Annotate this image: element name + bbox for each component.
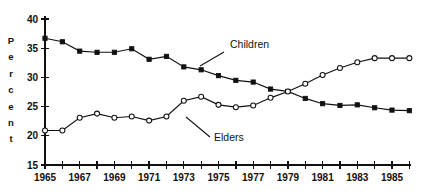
data-point-marker <box>199 94 204 99</box>
y-axis-label-letter: c <box>8 84 13 95</box>
x-tick-label: 1977 <box>242 172 265 183</box>
y-axis-label-letter: e <box>8 101 13 112</box>
data-point-marker <box>355 60 360 65</box>
data-point-marker <box>60 40 64 44</box>
data-point-marker <box>355 103 359 107</box>
data-point-marker <box>147 57 151 61</box>
x-tick-label: 1971 <box>138 172 161 183</box>
data-point-marker <box>321 102 325 106</box>
data-point-marker <box>373 106 377 110</box>
data-point-marker <box>234 78 238 82</box>
data-point-marker <box>233 105 238 110</box>
x-tick-label: 1975 <box>207 172 230 183</box>
data-point-marker <box>216 74 220 78</box>
y-axis-label-letter: t <box>9 133 13 144</box>
x-tick-label: 1967 <box>69 172 92 183</box>
data-point-marker <box>182 65 186 69</box>
y-axis-label-letter: r <box>9 68 13 79</box>
data-point-marker <box>372 56 377 61</box>
y-axis-label-letter: e <box>8 51 13 62</box>
data-point-marker <box>199 68 203 72</box>
data-point-marker <box>112 50 116 54</box>
y-tick-label: 30 <box>27 72 39 83</box>
data-point-marker <box>112 115 117 120</box>
data-point-marker <box>268 87 272 91</box>
y-tick-label: 20 <box>27 130 39 141</box>
data-point-marker <box>251 103 256 108</box>
y-tick-label: 35 <box>27 43 39 54</box>
data-point-marker <box>216 102 221 107</box>
x-tick-label: 1985 <box>381 172 404 183</box>
data-point-marker <box>337 66 342 71</box>
y-tick-label: 40 <box>27 14 39 25</box>
x-tick-label: 1983 <box>346 172 369 183</box>
data-point-marker <box>303 81 308 86</box>
x-tick-label: 1973 <box>173 172 196 183</box>
x-tick-label: 1965 <box>34 172 57 183</box>
y-tick-label: 25 <box>27 101 39 112</box>
data-point-marker <box>60 128 65 133</box>
data-point-marker <box>43 128 48 133</box>
data-point-marker <box>78 49 82 53</box>
data-point-marker <box>285 89 290 94</box>
series-polyline <box>45 58 409 130</box>
chart-page: 1520253035401965196719691971197319751977… <box>0 0 436 194</box>
series-elders <box>43 56 412 133</box>
x-tick-label: 1969 <box>103 172 126 183</box>
x-tick-label: 1981 <box>311 172 334 183</box>
series-label-children: Children <box>230 38 269 50</box>
data-point-marker <box>95 50 99 54</box>
data-point-marker <box>303 96 307 100</box>
data-point-marker <box>390 108 394 112</box>
y-axis-label-letter: P <box>8 35 15 46</box>
data-point-marker <box>95 111 100 116</box>
annotation-leader-line-elders <box>186 117 210 137</box>
series-label-elders: Elders <box>214 131 244 143</box>
data-point-marker <box>268 95 273 100</box>
x-tick-label: 1979 <box>277 172 300 183</box>
series-children <box>43 36 412 113</box>
data-point-marker <box>390 56 395 61</box>
data-point-marker <box>407 109 411 113</box>
data-point-marker <box>338 103 342 107</box>
series-polyline <box>45 38 409 110</box>
data-point-marker <box>164 54 168 58</box>
data-point-marker <box>251 80 255 84</box>
data-point-marker <box>164 114 169 119</box>
data-point-marker <box>43 36 47 40</box>
data-point-marker <box>320 73 325 78</box>
data-point-marker <box>181 98 186 103</box>
data-point-marker <box>147 118 152 123</box>
data-point-marker <box>129 114 134 119</box>
line-chart: 1520253035401965196719691971197319751977… <box>0 0 436 194</box>
data-point-marker <box>130 47 134 51</box>
y-tick-label: 15 <box>27 160 39 171</box>
y-axis-label-letter: n <box>8 117 14 128</box>
annotation-leader-line-children <box>200 52 224 66</box>
data-point-marker <box>77 115 82 120</box>
data-point-marker <box>407 56 412 61</box>
